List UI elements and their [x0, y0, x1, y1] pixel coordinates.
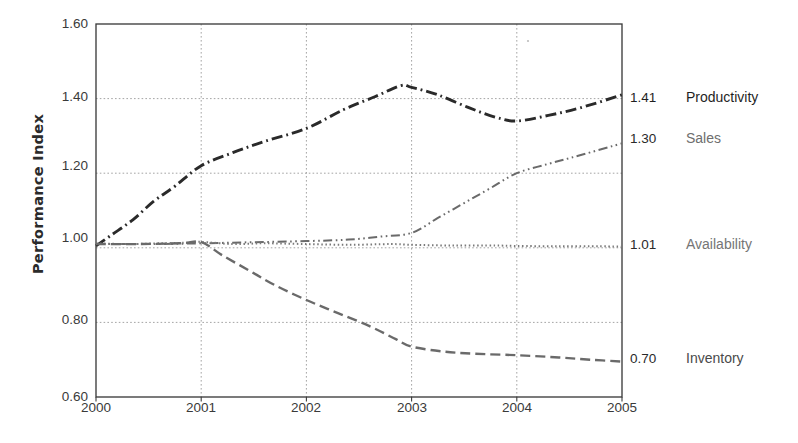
- gridlines: [96, 24, 622, 397]
- end-label-value: 1.41: [630, 90, 672, 105]
- end-label-name: Productivity: [672, 89, 758, 105]
- end-label-availability: 1.01Availability: [630, 235, 752, 253]
- data-series-group: [96, 85, 622, 362]
- end-label-name: Availability: [672, 236, 752, 252]
- end-label-value: 1.30: [630, 131, 672, 146]
- end-label-value: 1.01: [630, 237, 672, 252]
- series-line-inventory: [96, 241, 622, 361]
- series-line-sales: [96, 143, 622, 244]
- plot-area: [0, 0, 798, 443]
- end-label-productivity: 1.41Productivity: [630, 88, 758, 106]
- end-label-value: 0.70: [630, 351, 672, 366]
- series-line-productivity: [96, 85, 622, 246]
- end-label-sales: 1.30Sales: [630, 129, 721, 147]
- axis-frame: [96, 24, 622, 397]
- scan-speck-artifact: [527, 40, 529, 42]
- performance-index-chart: Performance Index 1.60 1.40 1.20 1.00 0.…: [0, 0, 798, 443]
- end-label-inventory: 0.70Inventory: [630, 349, 744, 367]
- end-label-name: Inventory: [672, 350, 744, 366]
- end-label-name: Sales: [672, 130, 721, 146]
